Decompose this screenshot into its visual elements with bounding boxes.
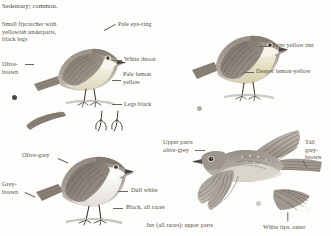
annotation-tail-grey-brown: Tail grey- brown — [305, 138, 321, 161]
leader-upper-parts — [195, 150, 205, 151]
wing-detail-small — [24, 110, 68, 132]
perched-flycatcher-right — [188, 22, 288, 106]
annotation-deeper-lemon-yellow: Deeper lemon-yellow — [256, 67, 311, 75]
leader-deeper-lemon — [244, 72, 254, 73]
feet-detail — [92, 108, 132, 134]
field-guide-plate: Sedentary; common. Small flycatcher with… — [0, 0, 331, 236]
leader-black-races — [113, 208, 123, 209]
annotation-legs-black: Legs black — [124, 100, 151, 108]
annotation-pale-eye-ring: Pale eye-ring — [118, 20, 151, 28]
species-description: Small flycatcher with yellowish underpar… — [2, 20, 86, 43]
leader-dull-white — [118, 191, 128, 192]
leader-faint-yellow — [260, 46, 270, 47]
annotation-upper-parts-olive-grey: Upper parts olive-grey — [163, 138, 193, 153]
leader-olive-brown — [25, 64, 34, 65]
leader-white-tips — [288, 212, 289, 221]
leader-pale-lemon — [112, 80, 121, 81]
marker-mid-dot — [197, 106, 202, 111]
annotation-white-tips-outer: White tips, outer — [263, 223, 305, 231]
annotation-black-all-races: Black, all races — [126, 203, 165, 211]
annotation-grey-brown: Grey- brown — [2, 180, 18, 195]
annotation-white-throat: White throat — [124, 55, 156, 63]
status-line: Sedentary; common. — [2, 2, 57, 10]
leader-white-throat — [112, 60, 122, 61]
annotation-juv-all-races: Juv (all races): upper parts — [146, 221, 213, 229]
annotation-dull-white: Dull white — [131, 186, 158, 194]
tail-detail — [270, 186, 314, 214]
annotation-olive-brown: Olive- brown — [2, 60, 18, 75]
annotation-olive-grey: Olive-grey — [22, 151, 49, 159]
leader-legs-black — [112, 104, 122, 105]
annotation-pale-lemon-yellow: Pale lemon yellow — [123, 70, 151, 85]
marker-light-dot — [256, 201, 261, 206]
marker-dark-dot — [12, 95, 17, 100]
annotation-faint-yellow-tint: Faint yellow tint — [272, 41, 314, 49]
